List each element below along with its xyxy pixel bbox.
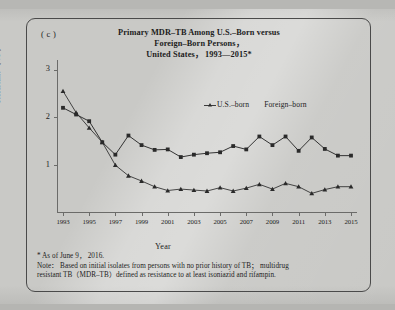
data-point-square (100, 140, 104, 144)
x-axis-tick-label: 2005 (207, 218, 233, 225)
x-axis-tick-label: 2011 (286, 218, 312, 225)
x-axis-tick-label: 2007 (233, 218, 259, 225)
page-bottom-edge (0, 304, 395, 310)
data-point-square (218, 150, 222, 154)
data-point-square (140, 143, 144, 147)
x-axis-tick-mark (168, 213, 169, 216)
x-axis-tick-label: 2015 (338, 218, 364, 225)
x-axis-tick-label: 2003 (181, 218, 207, 225)
x-axis-tick-mark (220, 213, 221, 216)
data-point-square (349, 154, 353, 158)
data-point-square (257, 135, 261, 139)
series-line (63, 91, 351, 193)
x-axis-tick-mark (246, 213, 247, 216)
data-point-triangle (283, 181, 288, 185)
footnote-note-line-1: Note： Based on initial isolates from per… (37, 262, 359, 272)
x-axis-tick-mark (63, 213, 64, 216)
data-point-square (310, 136, 314, 140)
x-axis-tick-label: 2001 (155, 218, 181, 225)
y-axis-tick-label: 2 (38, 112, 50, 121)
x-axis-tick-label: 1993 (50, 218, 76, 225)
x-axis-tick-mark (89, 213, 90, 216)
chart-title-line-1: Primary MDR–TB Among U.S.–Born versus (74, 27, 324, 38)
data-point-square (61, 106, 65, 110)
y-axis-tick-mark (54, 165, 57, 166)
x-axis-tick-label: 2009 (259, 218, 285, 225)
data-point-triangle (257, 182, 262, 186)
data-point-square (231, 144, 235, 148)
chart-title-line-3: United States， 1993—2015* (74, 49, 324, 60)
chart-title-line-2: Foreign–Born Persons， (74, 38, 324, 49)
x-axis-tick-mark (115, 213, 116, 216)
panel-label: ( c ) (41, 29, 56, 39)
data-series-layer (57, 60, 357, 213)
x-axis-title: Year (155, 242, 171, 251)
data-point-square (113, 153, 117, 157)
data-point-triangle (152, 184, 157, 188)
data-point-square (127, 134, 131, 138)
x-axis-tick-label: 1997 (102, 218, 128, 225)
x-axis-tick-label: 1999 (129, 218, 155, 225)
data-point-square (297, 149, 301, 153)
data-point-square (336, 154, 340, 158)
x-axis-tick-mark (299, 213, 300, 216)
data-point-triangle (61, 89, 66, 93)
x-axis-tick-label: 2013 (312, 218, 338, 225)
x-axis-tick-mark (194, 213, 195, 216)
y-axis-tick-label: 1 (38, 160, 50, 169)
x-axis-tick-mark (142, 213, 143, 216)
y-axis-title: Resistant（ % ） (0, 43, 2, 103)
data-point-square (166, 148, 170, 152)
data-point-square (179, 155, 183, 159)
data-point-square (271, 143, 275, 147)
data-point-square (153, 148, 157, 152)
page-top-edge (0, 0, 395, 9)
y-axis-tick-mark (54, 117, 57, 118)
data-point-square (192, 153, 196, 157)
footnote-note-line-2: resistant TB（MDR–TB）defined as resistanc… (37, 271, 359, 281)
x-axis-tick-mark (325, 213, 326, 216)
chart-title: Primary MDR–TB Among U.S.–Born versus Fo… (74, 27, 324, 61)
footnote-asterisk: * As of June 9， 2016. (37, 252, 359, 262)
data-point-square (284, 135, 288, 139)
y-axis-tick-mark (54, 70, 57, 71)
data-point-triangle (113, 163, 118, 167)
data-point-square (323, 147, 327, 151)
plot-area: 1231993199519971999200120032005200720092… (57, 60, 357, 213)
y-axis-tick-label: 3 (38, 64, 50, 73)
x-axis-tick-mark (351, 213, 352, 216)
data-point-triangle (218, 185, 223, 189)
data-point-square (205, 151, 209, 155)
data-point-square (87, 119, 91, 123)
data-point-square (244, 148, 248, 152)
x-axis-tick-mark (272, 213, 273, 216)
data-point-square (74, 113, 78, 117)
x-axis-tick-label: 1995 (76, 218, 102, 225)
figure-footnotes: * As of June 9， 2016. Note： Based on ini… (37, 252, 359, 281)
